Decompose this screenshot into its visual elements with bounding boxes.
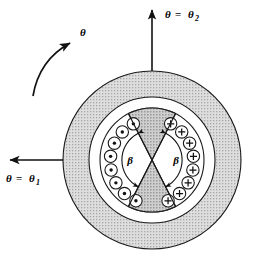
coil-right-2 (176, 126, 188, 138)
beta-label-left: β (126, 154, 133, 166)
machine-cross-section-diagram: β β θ = θ 2 θ = θ 1 θ (0, 0, 257, 261)
rotation-angle-label: θ (80, 26, 86, 38)
coil-left-4 (104, 150, 116, 162)
coil-right-4 (187, 150, 199, 162)
coil-left-2 (116, 126, 128, 138)
theta-two-subscript: 2 (194, 14, 199, 23)
coil-right-7 (173, 187, 185, 199)
figure-root: β β θ = θ 2 θ = θ 1 θ (0, 0, 257, 261)
inner-assembly: β β (100, 108, 204, 212)
beta-label-right: β (172, 154, 179, 166)
coil-left-5 (105, 164, 117, 176)
coil-right-6 (182, 177, 194, 189)
theta-two-equals: = (175, 8, 181, 20)
coil-right-3 (183, 137, 195, 149)
coil-left-7 (118, 187, 130, 199)
theta-one-equals: = (16, 172, 22, 184)
coil-left-6 (110, 177, 122, 189)
theta-one-subscript: 1 (36, 178, 40, 187)
coil-right-5 (187, 164, 199, 176)
theta-two-value-symbol: θ (188, 8, 194, 20)
coil-left-3 (108, 137, 120, 149)
theta-one-value-symbol: θ (29, 172, 35, 184)
theta-one-theta-symbol: θ (6, 172, 12, 184)
theta-two-theta-symbol: θ (165, 8, 171, 20)
